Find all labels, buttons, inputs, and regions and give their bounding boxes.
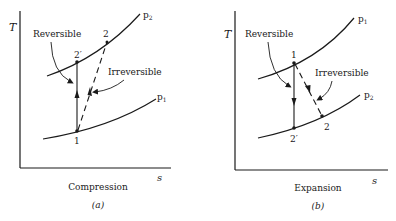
reversible-pointer-icon xyxy=(268,42,289,86)
irreversible-path xyxy=(78,42,107,130)
panel-title: Expansion xyxy=(294,183,341,193)
point-2 xyxy=(320,114,324,118)
panel-title: Compression xyxy=(68,182,128,192)
y-axis-label: T xyxy=(224,28,233,41)
ts-diagram: T s p2 p1 2′ 1 2 Reversible Irreversible… xyxy=(0,0,396,221)
isobar-p1-label: p1 xyxy=(358,14,368,25)
arrow-up-icon xyxy=(75,90,80,98)
point-2-prime xyxy=(75,60,79,64)
isobar-p1 xyxy=(43,99,156,139)
arrow-down-icon xyxy=(292,98,297,106)
reversible-pointer-icon xyxy=(51,42,71,82)
point-1-label: 1 xyxy=(74,136,80,146)
panel-caption: (a) xyxy=(92,200,105,210)
arrow-down-dashed-icon xyxy=(305,85,311,93)
point-2-label: 2 xyxy=(103,29,109,39)
reversible-annotation: Reversible xyxy=(245,29,293,39)
panel-caption: (b) xyxy=(312,201,325,211)
panel-compression: T s p2 p1 2′ 1 2 Reversible Irreversible… xyxy=(9,10,171,210)
point-1 xyxy=(292,61,296,65)
irreversible-annotation: Irreversible xyxy=(315,68,369,78)
y-axis-label: T xyxy=(9,21,18,34)
point-2-label: 2 xyxy=(324,122,330,132)
point-2-prime-label: 2′ xyxy=(74,50,82,60)
reversible-annotation: Reversible xyxy=(33,29,81,39)
x-axis-label: s xyxy=(372,175,377,186)
irreversible-annotation: Irreversible xyxy=(108,67,162,77)
point-2-prime xyxy=(292,126,296,130)
panel-expansion: T s p1 p2 1 2′ 2 Reversible Irreversible… xyxy=(224,11,388,211)
irreversible-pointer-icon xyxy=(95,80,124,92)
isobar-p2-label: p2 xyxy=(143,10,153,21)
isobar-p1-label: p1 xyxy=(157,92,167,103)
point-2 xyxy=(106,41,109,44)
irreversible-pointer-icon xyxy=(319,81,332,99)
isobar-p2-label: p2 xyxy=(364,90,374,101)
point-1 xyxy=(75,129,79,133)
isobar-p2 xyxy=(258,95,360,138)
point-1-label: 1 xyxy=(291,50,297,60)
point-2-prime-label: 2′ xyxy=(290,134,298,144)
x-axis-label: s xyxy=(157,172,162,183)
